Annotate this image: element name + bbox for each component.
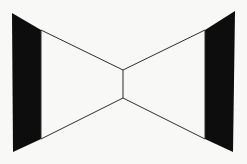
left-black-trapezoid	[12, 13, 41, 152]
figure-canvas	[0, 0, 247, 164]
right-black-trapezoid	[205, 11, 235, 152]
figure-svg	[0, 0, 247, 164]
